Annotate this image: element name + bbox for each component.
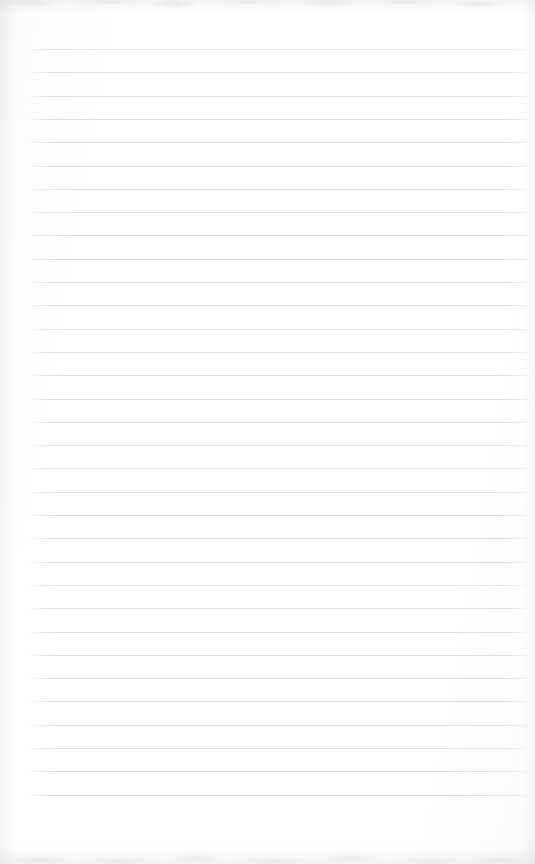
rule-line <box>26 771 531 772</box>
rule-line <box>26 608 531 609</box>
rule-line <box>26 748 531 749</box>
right-edge-shadow <box>523 0 535 864</box>
rule-line <box>26 375 531 376</box>
rule-line <box>26 538 531 539</box>
rule-line <box>26 352 531 353</box>
rule-line <box>26 189 531 190</box>
rule-line <box>26 166 531 167</box>
bottom-edge-scan-noise <box>0 844 535 864</box>
rule-line <box>26 142 531 143</box>
rule-line <box>26 422 531 423</box>
rule-line <box>26 725 531 726</box>
rule-line <box>26 96 531 97</box>
ruled-lines-layer <box>0 0 535 864</box>
rule-line <box>26 49 531 50</box>
rule-line <box>26 492 531 493</box>
rule-line <box>26 305 531 306</box>
rule-line <box>26 235 531 236</box>
scanned-page <box>0 0 535 864</box>
rule-line <box>26 259 531 260</box>
left-edge-shadow <box>0 0 16 864</box>
rule-line <box>26 701 531 702</box>
rule-line <box>26 562 531 563</box>
rule-line <box>26 399 531 400</box>
rule-line <box>26 585 531 586</box>
top-edge-scan-noise <box>0 0 535 14</box>
rule-line <box>26 795 531 796</box>
rule-line <box>26 678 531 679</box>
rule-line <box>26 445 531 446</box>
rule-line <box>26 655 531 656</box>
rule-line <box>26 329 531 330</box>
rule-line <box>26 119 531 120</box>
rule-line <box>26 282 531 283</box>
rule-line <box>26 468 531 469</box>
rule-line <box>26 212 531 213</box>
rule-line <box>26 515 531 516</box>
rule-line <box>26 632 531 633</box>
rule-line <box>26 72 531 73</box>
